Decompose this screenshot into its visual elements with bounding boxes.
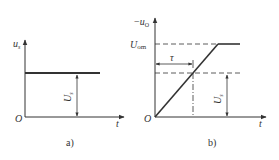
origin-label: O: [144, 113, 151, 124]
panel-a-caption: a): [66, 137, 74, 149]
origin-label: O: [15, 113, 22, 124]
us-level-label: Us: [212, 94, 224, 104]
ramp-line: [155, 44, 218, 117]
integrator-waveform-diagram: us O t Us a) −uO: [0, 0, 279, 160]
uom-label: Uom: [130, 39, 147, 51]
tau-label: τ: [170, 52, 174, 63]
panel-a: us O t Us a): [13, 38, 124, 149]
x-axis-label: t: [259, 118, 262, 129]
y-axis-label: −uO: [134, 16, 150, 28]
x-axis-label: t: [116, 118, 119, 129]
us-level-label: Us: [62, 92, 74, 102]
panel-b: −uO Uom τ O t Us b): [130, 16, 266, 149]
y-axis-label: us: [13, 38, 21, 50]
panel-b-caption: b): [208, 137, 216, 149]
